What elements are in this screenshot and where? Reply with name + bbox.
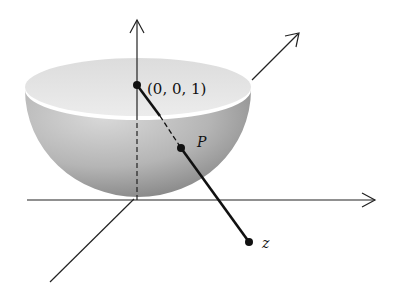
point-p-label: P [196,134,207,150]
north-pole-label: (0, 0, 1) [147,80,206,98]
hemisphere [25,58,251,197]
north-pole-point [133,81,141,89]
point-p [177,144,185,152]
point-z-label: z [261,235,270,251]
point-z [245,238,253,246]
stereographic-projection-diagram: (0, 0, 1) P z [0,0,396,302]
x-axis [27,193,375,207]
